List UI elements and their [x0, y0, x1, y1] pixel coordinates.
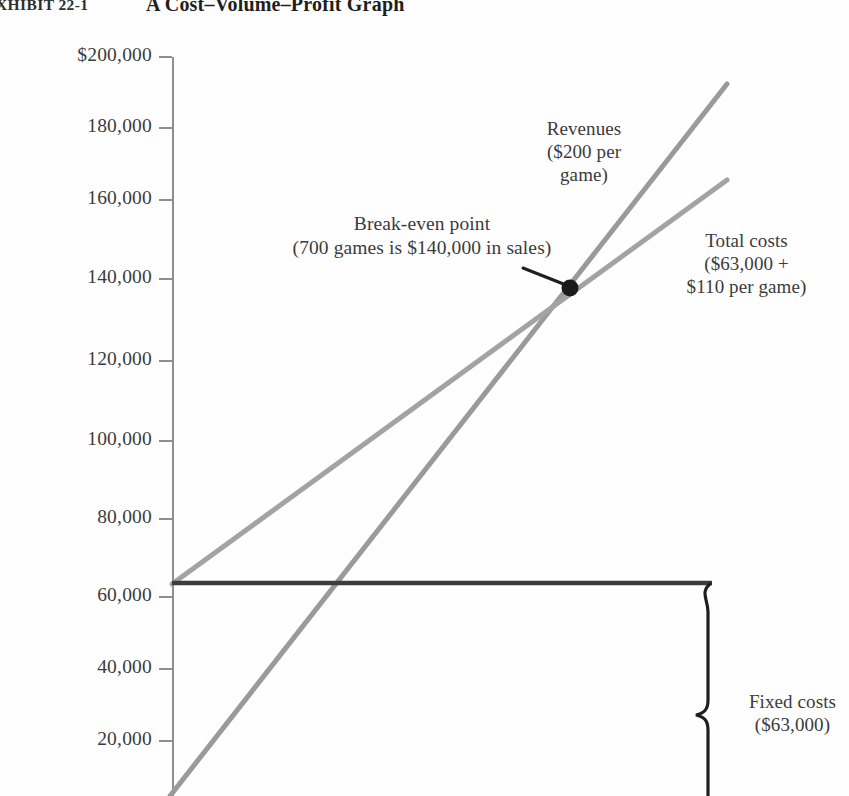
annotation-break-even: Break-even point (700 games is $140,000 … [236, 212, 608, 260]
annotation-fixed-costs: Fixed costs ($63,000) [736, 690, 849, 736]
fixed-costs-brace [696, 584, 710, 796]
revenue-line [170, 84, 727, 796]
break-even-leader-line [523, 268, 566, 285]
plot-lines [0, 0, 849, 796]
cvp-graph-figure: XHIBIT 22-1 A Cost–Volume–Profit Graph $… [0, 0, 849, 796]
annotation-total-costs: Total costs ($63,000 + $110 per game) [644, 229, 849, 299]
break-even-point-marker [562, 280, 579, 297]
annotation-revenues: Revenues ($200 per game) [489, 117, 679, 187]
